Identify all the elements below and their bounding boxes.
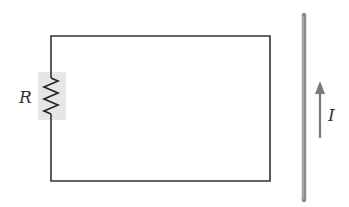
current-label: I — [327, 105, 335, 125]
circuit-loop — [51, 36, 270, 181]
resistor-label: R — [18, 87, 32, 107]
current-arrow-icon — [315, 81, 325, 94]
circuit-diagram: R I — [0, 0, 349, 207]
